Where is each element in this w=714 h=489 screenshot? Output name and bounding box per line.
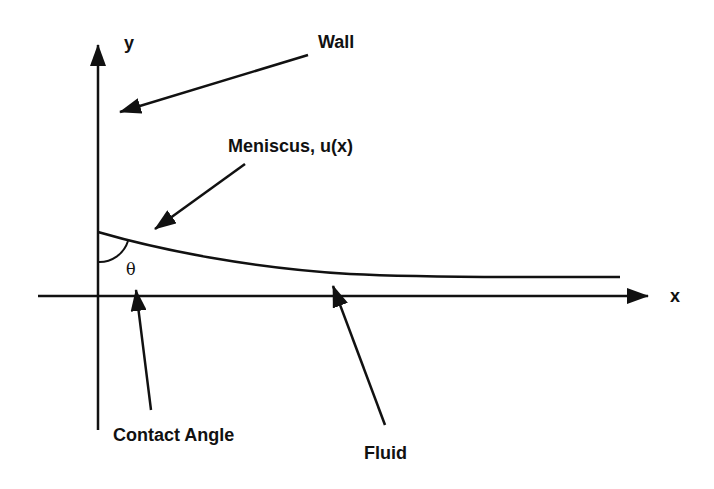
contact-angle-arc: [98, 241, 128, 262]
wall-arrow: [120, 55, 308, 112]
contact-angle-arrow: [136, 290, 151, 410]
wall-label: Wall: [318, 32, 354, 52]
meniscus-label: Meniscus, u(x): [228, 136, 353, 156]
meniscus-diagram: y x Wall Meniscus, u(x) θ Contact Angle …: [0, 0, 714, 489]
fluid-label: Fluid: [364, 443, 407, 463]
theta-symbol: θ: [126, 260, 136, 279]
x-axis-label: x: [670, 286, 680, 306]
y-axis-label: y: [124, 33, 134, 53]
meniscus-arrow: [155, 164, 245, 229]
contact-angle-label: Contact Angle: [113, 425, 234, 445]
meniscus-curve: [98, 232, 620, 277]
fluid-arrow: [333, 286, 385, 425]
